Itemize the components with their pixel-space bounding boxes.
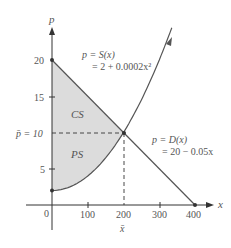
- y-tick-label-5: 5: [40, 164, 45, 175]
- surplus-chart: p x 20 15 5 0 100 200 300 400 p̄ = 10 x̄…: [0, 0, 231, 248]
- x-tick-label-300: 300: [152, 209, 167, 220]
- demand-x-intercept-point: [193, 203, 197, 207]
- x-tick-label-400: 400: [186, 209, 201, 220]
- supply-intercept-point: [50, 189, 54, 193]
- demand-label-line2: = 20 − 0.05x: [162, 146, 213, 157]
- x-axis-label: x: [217, 198, 223, 210]
- supply-label-line2: = 2 + 0.0002x²: [92, 61, 151, 72]
- x-axis-arrow-icon: [206, 202, 214, 208]
- cs-label: CS: [71, 108, 84, 120]
- x-tick-label-0: 0: [44, 208, 49, 219]
- supply-label-line1: p = S(x): [81, 49, 116, 61]
- y-tick-label-15: 15: [34, 92, 44, 103]
- demand-intercept-point: [50, 58, 54, 62]
- x-tick-label-100: 100: [80, 209, 95, 220]
- y-axis-label: p: [48, 13, 55, 25]
- demand-label-line1: p = D(x): [151, 134, 188, 146]
- x-tick-label-200: 200: [116, 209, 131, 220]
- ps-label: PS: [70, 148, 84, 160]
- surplus-region: [52, 60, 124, 191]
- equilibrium-quantity-label: x̄: [119, 223, 125, 234]
- equilibrium-price-label: p̄ = 10: [15, 128, 43, 139]
- y-axis-arrow-icon: [49, 27, 55, 35]
- y-tick-label-20: 20: [34, 55, 44, 66]
- equilibrium-point: [122, 131, 126, 135]
